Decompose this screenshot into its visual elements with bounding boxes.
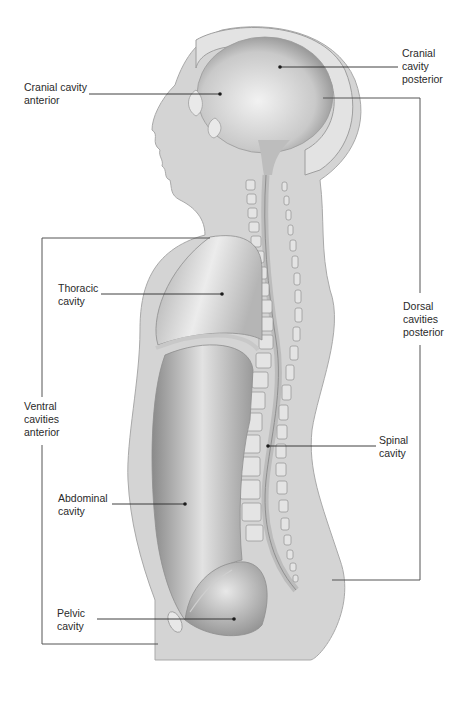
label-abdominal: Abdominal cavity — [58, 492, 108, 518]
label-dorsal: Dorsal cavities posterior — [403, 300, 444, 339]
label-pelvic: Pelvic cavity — [57, 607, 85, 633]
dorsal-bracket — [323, 98, 420, 580]
label-ventral: Ventral cavities anterior — [24, 400, 60, 439]
label-cranial-anterior: Cranial cavity anterior — [24, 81, 87, 107]
label-thoracic: Thoracic cavity — [58, 282, 98, 308]
label-cranial-posterior: Cranial cavity posterior — [402, 47, 443, 86]
label-spinal: Spinal cavity — [379, 434, 408, 460]
